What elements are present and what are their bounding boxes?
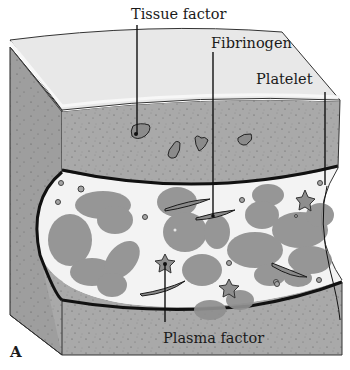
label-tissue-factor: Tissue factor [131, 6, 226, 22]
label-platelet: Platelet [256, 71, 313, 87]
clotting-diagram: Tissue factor Fibrinogen Platelet Plasma… [0, 0, 350, 370]
panel-letter: A [9, 343, 22, 361]
label-fibrinogen: Fibrinogen [211, 35, 292, 51]
label-plasma-factor: Plasma factor [163, 330, 264, 346]
